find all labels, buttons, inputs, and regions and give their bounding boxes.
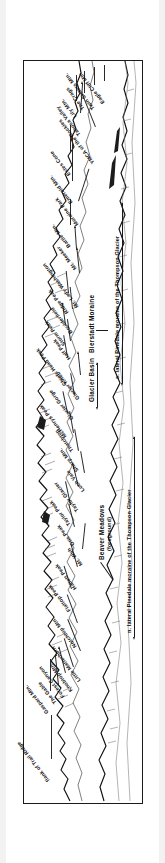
rotated-panorama-wrapper: Beaver Meadows (foreground) Glacier Basi…: [23, 60, 143, 804]
terrain-artwork: [24, 59, 144, 803]
figure-page: Beaver Meadows (foreground) Glacier Basi…: [0, 0, 165, 863]
caption-beaver-meadows: Beaver Meadows: [98, 504, 105, 559]
arrow-north-lateral-right: [132, 436, 134, 439]
arrow-south-lateral-right: [120, 202, 122, 205]
caption-south-lateral-moraine: s. lateral Pinedale moraine of the Thomp…: [114, 235, 120, 378]
caption-beaver-meadows-note: (foreground): [106, 516, 112, 550]
rule-north-lateral-moraine: [134, 437, 135, 637]
caption-bierstadt-moraine: Bierstadt Moraine: [88, 294, 95, 352]
rule-south-lateral-moraine: [122, 203, 123, 383]
caption-glacier-basin: Glacier Basin: [88, 357, 95, 401]
arrow-glacier-basin-right: [95, 362, 97, 365]
arrow-north-lateral-left: [132, 637, 134, 640]
caption-north-lateral-moraine: n. lateral Pinedale moraine of the Thomp…: [126, 489, 132, 632]
arrow-south-lateral-left: [120, 383, 122, 386]
arrow-glacier-basin-left: [95, 407, 97, 410]
panorama-frame: Beaver Meadows (foreground) Glacier Basi…: [23, 60, 143, 804]
rule-glacier-basin: [97, 363, 98, 407]
tick-bierstadt-moraine: [96, 330, 108, 331]
